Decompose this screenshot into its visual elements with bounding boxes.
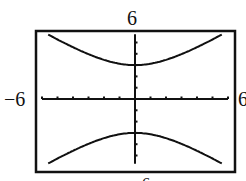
axes [42, 34, 228, 164]
graph-window [0, 0, 246, 181]
